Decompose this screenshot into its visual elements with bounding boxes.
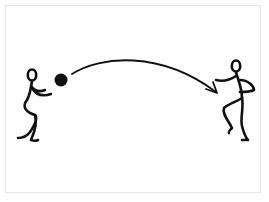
ball [55, 74, 68, 87]
receiver-arm-left [216, 76, 236, 81]
thrower-head [28, 70, 36, 81]
trajectory-arc [72, 60, 216, 92]
receiver-head [232, 61, 240, 72]
receiver-figure [216, 61, 254, 141]
ball-pass-illustration [0, 0, 269, 202]
receiver-leg-back [241, 98, 248, 140]
thrower-torso [27, 81, 32, 100]
thrower-arms [31, 86, 51, 95]
receiver-leg-front [224, 98, 242, 133]
thrower-figure [18, 70, 51, 141]
